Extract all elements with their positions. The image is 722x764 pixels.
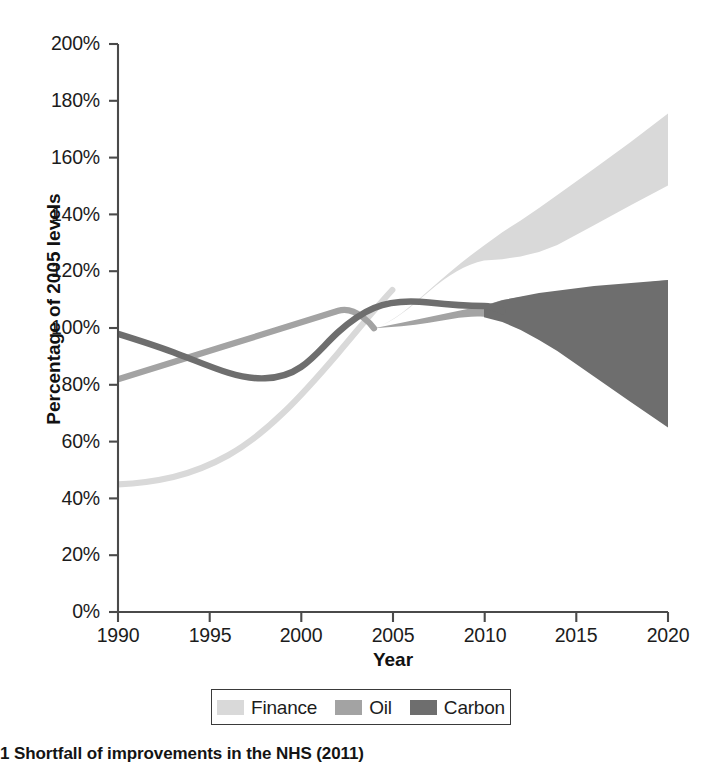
legend-label-carbon: Carbon — [444, 698, 505, 717]
ytick-label-40: 40% — [22, 489, 100, 509]
xtick-label-2015: 2015 — [531, 626, 621, 646]
chart-svg — [0, 0, 722, 640]
series-bands — [118, 114, 668, 485]
ytick-label-20: 20% — [22, 545, 100, 565]
y-axis-title: Percentage of 2005 levels — [43, 159, 65, 459]
ytick-label-200: 200% — [22, 34, 100, 54]
series-line-carbon — [118, 301, 502, 378]
finance-swatch — [217, 700, 244, 715]
chart-legend: Finance Oil Carbon — [211, 689, 511, 725]
oil-swatch — [335, 700, 362, 715]
chart-plot-area: 200% 180% 160% 140% 120% 100% 80% 60% 40… — [0, 0, 722, 640]
legend-entry-finance[interactable]: Finance — [217, 698, 317, 717]
ytick-label-0: 0% — [22, 602, 100, 622]
legend-entry-oil[interactable]: Oil — [335, 698, 392, 717]
x-axis-title: Year — [118, 649, 668, 671]
legend-label-oil: Oil — [369, 698, 392, 717]
xtick-label-1990: 1990 — [73, 626, 163, 646]
y-axis-ticks — [109, 44, 118, 612]
x-axis-ticks — [118, 612, 668, 622]
ytick-label-180: 180% — [22, 91, 100, 111]
legend-entry-carbon[interactable]: Carbon — [410, 698, 505, 717]
figure-caption: 1 Shortfall of improvements in the NHS (… — [0, 744, 722, 764]
xtick-label-2010: 2010 — [440, 626, 530, 646]
xtick-label-2005: 2005 — [348, 626, 438, 646]
xtick-label-2000: 2000 — [256, 626, 346, 646]
carbon-swatch — [410, 700, 437, 715]
legend-label-finance: Finance — [251, 698, 317, 717]
series-band-carbon — [484, 280, 668, 428]
xtick-label-1995: 1995 — [165, 626, 255, 646]
xtick-label-2020: 2020 — [623, 626, 713, 646]
